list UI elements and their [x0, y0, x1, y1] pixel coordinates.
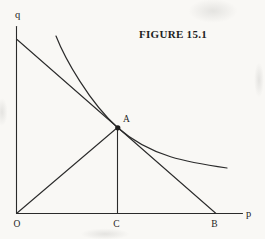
ray-o-to-a	[17, 128, 118, 214]
point-a-dot	[115, 125, 120, 130]
point-o-label: O	[14, 219, 21, 229]
p-axis-label: p	[246, 208, 251, 219]
figure-diagram: FIGURE 15.1 q p A O C B	[0, 0, 265, 239]
scanned-figure-page: FIGURE 15.1 q p A O C B	[0, 0, 265, 239]
point-a-label: A	[123, 114, 130, 124]
point-b-label: B	[211, 219, 217, 229]
q-axis-label: q	[15, 9, 21, 20]
point-c-label: C	[113, 219, 119, 229]
figure-title: FIGURE 15.1	[139, 28, 207, 40]
